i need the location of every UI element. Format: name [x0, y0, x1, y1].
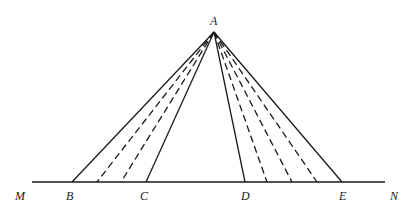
dashed-line-2 — [121, 32, 214, 182]
label-c: C — [140, 189, 149, 203]
label-e: E — [338, 189, 347, 203]
label-m: M — [14, 189, 26, 203]
geometry-diagram: A M B C D E N — [0, 0, 416, 216]
label-a: A — [209, 14, 218, 28]
label-b: B — [66, 189, 74, 203]
dashed-line-4 — [214, 32, 292, 182]
line-ae — [214, 32, 342, 182]
label-d: D — [240, 189, 250, 203]
line-ab — [72, 32, 214, 182]
label-n: N — [389, 189, 399, 203]
